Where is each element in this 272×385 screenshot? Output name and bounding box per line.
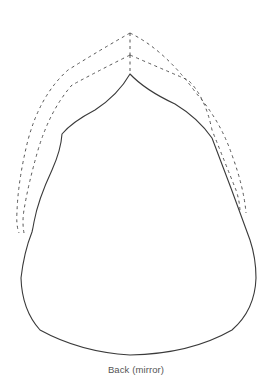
pattern-cut-outline: [21, 74, 256, 355]
inner-seam-allowance-line: [23, 55, 240, 233]
piece-caption: Back (mirror): [0, 364, 272, 375]
pattern-drawing: [0, 0, 272, 385]
outer-seam-allowance-line: [17, 33, 246, 233]
